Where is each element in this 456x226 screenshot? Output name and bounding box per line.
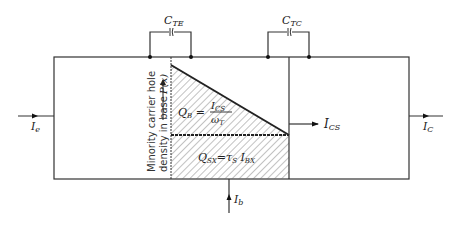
base-current: Ib (227, 179, 244, 213)
ie-label: Ie (30, 120, 40, 134)
axis-label: Minority carrier hole density in base P(… (146, 71, 169, 172)
transistor-charge-diagram: Minority carrier hole density in base P(… (0, 0, 456, 226)
emitter-current: Ie (18, 114, 54, 135)
ics-label: ICS (323, 117, 341, 132)
cte-label: CTE (164, 14, 184, 28)
qb-lhs: QB = (178, 106, 205, 120)
axis-label-line1: Minority carrier hole (146, 71, 157, 172)
capacitor-cte: CTE (148, 14, 193, 59)
ctc-label: CTC (282, 14, 302, 28)
ib-label: Ib (233, 193, 243, 207)
ic-label: IC (422, 120, 433, 134)
collector-current: IC (409, 114, 443, 135)
capacitor-ctc: CTC (266, 14, 311, 59)
ics-current: ICS (289, 117, 341, 132)
